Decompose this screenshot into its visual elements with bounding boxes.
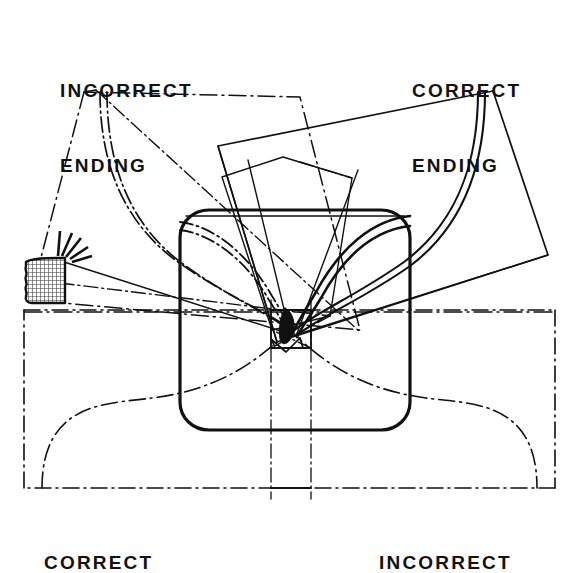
label-incorrect-ending-line1: INCORRECT	[60, 78, 193, 103]
hatched-electrode-block	[25, 258, 65, 303]
label-incorrect-ending: INCORRECT ENDING	[60, 28, 193, 228]
diagram-canvas: INCORRECT ENDING CORRECT ENDING CORRECT …	[0, 0, 579, 573]
beginning-reference-arcs	[42, 330, 537, 488]
label-incorrect-beginning-line1: INCORRECT	[379, 550, 512, 573]
center-wedge-panel	[222, 157, 352, 330]
label-correct-ending-line2: ENDING	[412, 153, 521, 178]
label-incorrect-beginning: INCORRECT BEGINNING	[379, 500, 512, 573]
label-correct-beginning-line1: CORRECT	[44, 550, 171, 573]
label-correct-ending-line1: CORRECT	[412, 78, 521, 103]
label-correct-beginning: CORRECT BEGINNING	[44, 500, 171, 573]
rounded-workpiece-plate	[180, 210, 410, 430]
label-correct-ending: CORRECT ENDING	[412, 28, 521, 228]
label-incorrect-ending-line2: ENDING	[60, 153, 193, 178]
